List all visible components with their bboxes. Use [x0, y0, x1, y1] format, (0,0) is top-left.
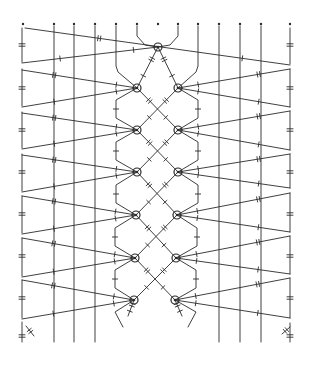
pin-dot [260, 23, 262, 25]
passive-thread [22, 47, 158, 63]
pin-dot [53, 23, 55, 25]
pin-ring-center [134, 257, 137, 260]
twist-tick [195, 301, 196, 306]
passive-thread [22, 258, 135, 277]
pin-dot [73, 23, 75, 25]
twist-tick [198, 172, 199, 177]
twist-tick [53, 72, 54, 77]
twist-tick [113, 301, 114, 306]
twist-tick [258, 181, 259, 186]
rail-threads [112, 26, 200, 327]
braid-thread [137, 47, 158, 88]
twist-tick [196, 258, 197, 263]
twist-tick [197, 208, 198, 213]
left-rail [115, 26, 137, 327]
twist-tick [259, 114, 260, 119]
twist-tick [258, 267, 259, 272]
passive-thread [22, 70, 137, 88]
pin-dot [218, 23, 220, 25]
passive-thread [22, 280, 134, 300]
braid-thread [136, 172, 178, 215]
twist-tick [257, 157, 258, 162]
twist-tick [259, 72, 260, 77]
passive-thread [178, 111, 290, 130]
passive-thread [178, 88, 290, 107]
braid-thread [158, 47, 178, 88]
twist-tick [55, 73, 56, 78]
passive-thread [178, 69, 290, 88]
twist-tick [114, 252, 115, 257]
pin-ring-center [133, 299, 136, 302]
twist-tick [198, 124, 199, 129]
twist-tick [256, 282, 257, 287]
passive-thread [175, 300, 290, 318]
pin-ring-center [135, 214, 138, 217]
twist-tick [116, 173, 117, 178]
twist-tick [242, 56, 243, 61]
passive-thread [22, 215, 136, 234]
twist-tick [113, 294, 114, 299]
passive-thread [178, 172, 290, 188]
twist-tick [257, 114, 258, 119]
pin-dot [136, 23, 138, 25]
pin-ring-center [177, 171, 180, 174]
twist-tick [60, 56, 61, 61]
pin-ring-center [136, 129, 139, 132]
twist-tick [197, 215, 198, 220]
twist-tick [55, 199, 56, 204]
passive-thread [178, 154, 290, 172]
pin-ring-center [177, 87, 180, 90]
twist-tick [196, 251, 197, 256]
pin-ring-center [177, 129, 180, 132]
passive-thread [177, 215, 290, 232]
twist-tick [258, 142, 259, 147]
top-pins [22, 23, 291, 25]
twist-tick [198, 82, 199, 87]
passive-thread [22, 172, 137, 192]
twist-tick [115, 216, 116, 221]
straight-threads [54, 26, 261, 342]
twist-tick [53, 115, 54, 120]
pin-dot [289, 23, 291, 25]
twist-tick [259, 196, 260, 201]
twist-tick [53, 157, 54, 162]
pin-ring-center [175, 257, 178, 260]
twist-tick [198, 89, 199, 94]
passive-thread [22, 155, 137, 172]
twist-tick [257, 72, 258, 77]
twist-tick [133, 47, 134, 52]
pin-dot [94, 23, 96, 25]
pin-ring-center [136, 87, 139, 90]
passive-thread [176, 236, 290, 258]
pin-dot [22, 23, 24, 25]
passive-thread [22, 196, 136, 215]
twist-tick [52, 199, 53, 204]
twist-tick [52, 283, 53, 288]
twist-tick [116, 131, 117, 136]
twist-tick [114, 259, 115, 264]
passive-threads [22, 28, 290, 336]
twist-tick [258, 99, 259, 104]
twist-tick [259, 239, 260, 244]
twist-tick [54, 241, 55, 246]
twist-tick [116, 124, 117, 129]
pin-ring-center [157, 46, 160, 49]
twist-tick [100, 36, 101, 41]
passive-thread [175, 278, 290, 300]
twist-tick [116, 82, 117, 87]
twist-tick [52, 241, 53, 246]
passive-thread [22, 113, 137, 130]
twist-tick [98, 36, 99, 41]
pin-dot [239, 23, 241, 25]
twist-tick [198, 166, 199, 171]
pin-ring-center [174, 299, 177, 302]
pin-ring-center [136, 171, 139, 174]
pin-dot [115, 23, 117, 25]
twist-tick [257, 310, 258, 315]
twist-tick [115, 209, 116, 214]
twist-tick [195, 293, 196, 298]
twist-tick [116, 166, 117, 171]
braid-thread [134, 258, 176, 300]
twist-tick [259, 281, 260, 286]
twist-tick [256, 240, 257, 245]
